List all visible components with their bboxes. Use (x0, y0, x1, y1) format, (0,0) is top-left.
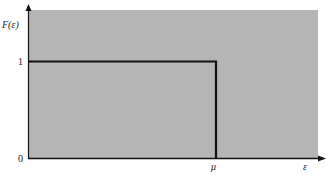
step-function-chart: F(ε) 1 0 μ ε (0, 0, 327, 176)
x-axis-arrow-icon (318, 156, 326, 162)
y-axis-arrow-icon (26, 4, 32, 11)
y-axis-label: F(ε) (1, 19, 19, 31)
x-axis-label: ε (303, 161, 307, 172)
y-tick-zero: 0 (18, 153, 23, 164)
y-tick-one: 1 (18, 56, 23, 67)
x-tick-mu: μ (210, 161, 216, 172)
plot-background (28, 10, 318, 158)
